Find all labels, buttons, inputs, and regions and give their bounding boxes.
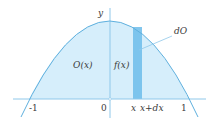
strip-label-x: x	[131, 104, 136, 113]
region-label: O(x)	[73, 61, 92, 70]
y-axis-label: y	[98, 9, 103, 18]
height-label: f(x)	[114, 61, 129, 70]
tick-label-one: 1	[181, 104, 187, 113]
tick-label-zero: 0	[101, 104, 107, 113]
area-under-parabola-diagram: y dO O(x) f(x) -1 0 x x+dx 1	[0, 0, 219, 126]
tick-label-neg-one: -1	[29, 104, 38, 113]
strip-label-x-plus-dx: x+dx	[140, 104, 163, 113]
strip-dx	[133, 27, 142, 99]
dO-label: dO	[174, 27, 187, 36]
origin-point	[109, 98, 112, 101]
